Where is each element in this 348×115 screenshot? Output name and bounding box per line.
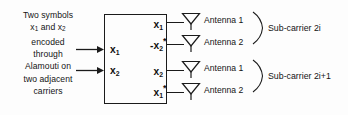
subcarrier-group-label-1: Sub-carrier 2i (268, 24, 321, 33)
encoder-output-label-4: x1* (126, 88, 163, 99)
antenna-icon (180, 59, 202, 79)
input-arrow-1-icon (76, 45, 105, 54)
antenna-icon (180, 81, 202, 101)
alamouti-block-diagram: Two symbols x1 and x2 encoded through Al… (0, 0, 348, 115)
encoder-output-label-1: x1 (126, 20, 163, 31)
group-brace-icon (252, 59, 265, 93)
antenna-label-2: Antenna 2 (204, 38, 243, 47)
encoder-input-1-sub: 1 (116, 49, 120, 56)
encoder-input-2-sub: 2 (116, 70, 120, 77)
antenna-label-3: Antenna 1 (204, 64, 243, 73)
group-brace-icon (252, 11, 265, 45)
caption-line-1: Two symbols (2, 9, 94, 21)
encoder-input-label-1: x1 (110, 45, 120, 56)
encoder-input-label-2: x2 (110, 66, 120, 77)
encoder-output-label-3: x2 (126, 67, 163, 78)
antenna-label-4: Antenna 2 (204, 86, 243, 95)
subcarrier-group-label-2: Sub-carrier 2i+1 (268, 72, 331, 81)
caption-line-2: x1 and x2 (2, 21, 94, 35)
antenna-icon (180, 11, 202, 31)
encoder-output-1-sub: 1 (159, 24, 163, 31)
antenna-label-1: Antenna 1 (204, 16, 243, 25)
caption-line-7: carriers (2, 85, 94, 97)
caption-line-2-and: and x (38, 22, 62, 32)
encoder-output-label-2: -x2* (120, 41, 163, 52)
caption-line-2-x2-sub: 2 (62, 25, 66, 32)
antenna-icon (180, 33, 202, 53)
input-arrow-2-icon (76, 66, 105, 75)
encoder-output-3-sub: 2 (159, 71, 163, 78)
